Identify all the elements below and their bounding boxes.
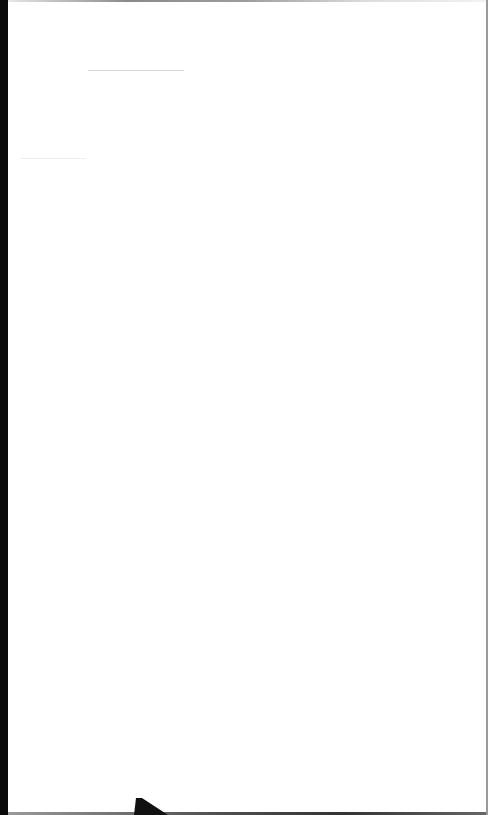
page-left-border <box>0 0 8 815</box>
blank-page <box>8 2 486 812</box>
faint-rule-line <box>88 70 184 71</box>
pointer-shadow-icon <box>130 796 170 815</box>
faint-rule-line-small <box>20 158 86 159</box>
